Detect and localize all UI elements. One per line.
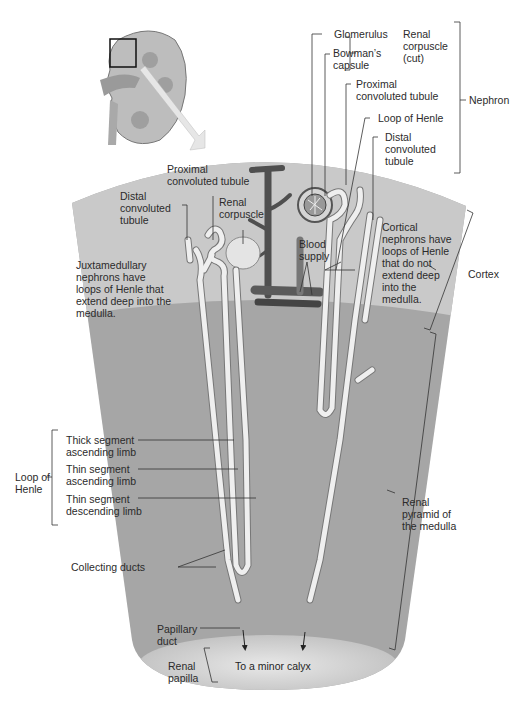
label-bowmans-capsule: Bowman’scapsule [333, 47, 381, 71]
label-proximal-convoluted-tubule-right: Proximalconvoluted tubule [356, 78, 438, 102]
label-distal-convoluted-tubule-right: Distalconvolutedtubule [385, 131, 436, 167]
label-renal-corpuscle: Renalcorpuscle [219, 196, 264, 220]
kidney-thumbnail [100, 31, 205, 150]
label-renal-pyramid: Renalpyramid ofthe medulla [402, 496, 456, 532]
label-juxtamedullary-nephrons: Juxtamedullarynephrons haveloops of Henl… [76, 259, 171, 319]
label-papillary-duct: Papillaryduct [157, 623, 197, 647]
label-thin-segment-descending-limb: Thin segmentdescending limb [66, 493, 142, 517]
label-distal-convoluted-tubule-left: Distalconvolutedtubule [120, 190, 171, 226]
label-loop-of-henle-bracket: Loop ofHenle [15, 471, 50, 495]
renal-wedge [0, 100, 524, 702]
label-renal-corpuscle-cut: Renalcorpuscle(cut) [403, 28, 448, 64]
glomerulus-right [298, 188, 332, 222]
label-loop-of-henle-top: Loop of Henle [378, 112, 443, 124]
label-collecting-ducts: Collecting ducts [71, 561, 145, 573]
nephron-diagram [0, 0, 524, 702]
label-thick-segment-ascending-limb: Thick segmentascending limb [66, 434, 136, 458]
label-to-minor-calyx: To a minor calyx [235, 660, 311, 672]
label-blood-supply: Bloodsupply [299, 238, 329, 262]
label-glomerulus: Glomerulus [334, 28, 388, 40]
label-nephron: Nephron [469, 94, 509, 106]
label-proximal-convoluted-tubule-left: Proximalconvoluted tubule [167, 163, 249, 187]
label-cortex: Cortex [468, 268, 499, 280]
label-renal-papilla: Renalpapilla [168, 660, 198, 684]
label-thin-segment-ascending-limb: Thin segmentascending limb [66, 463, 136, 487]
label-cortical-nephrons: Corticalnephrons haveloops of Henlethat … [382, 221, 451, 305]
